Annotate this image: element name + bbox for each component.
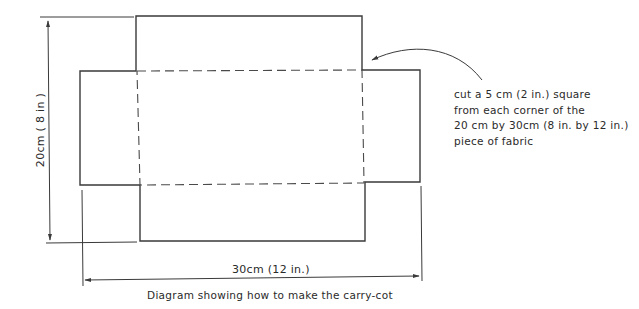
height-dimension-label: 20cm ( 8 in ) [34, 93, 47, 167]
width-dimension-label: 30cm (12 in.) [232, 263, 310, 276]
width-dimension-arrow [85, 276, 419, 280]
note-line: cut a 5 cm (2 in.) square [454, 87, 629, 103]
note-line: 20 cm by 30cm (8 in. by 12 in.) [454, 118, 629, 134]
width-extension-left [82, 190, 83, 286]
height-dimension-arrow [48, 21, 50, 240]
fold-lines-dashed [137, 70, 364, 185]
note-line: from each corner of the [454, 103, 629, 119]
pointer-arrow-icon [372, 49, 482, 80]
diagram-caption: Diagram showing how to make the carry-co… [147, 289, 393, 301]
width-extension-right [421, 186, 422, 281]
carry-cot-diagram [0, 0, 639, 309]
height-extension-bottom [46, 242, 137, 243]
cut-instruction-note: cut a 5 cm (2 in.) square from each corn… [454, 87, 629, 149]
note-line: piece of fabric [454, 134, 629, 150]
fabric-outline [80, 16, 420, 241]
